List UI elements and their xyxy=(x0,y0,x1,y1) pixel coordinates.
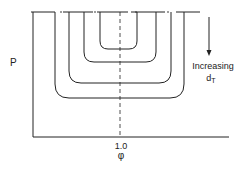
diagram-canvas: P 1.0 φ Increasing dT xyxy=(0,0,245,169)
annotation-line2: dT xyxy=(206,73,216,84)
annotation-line1: Increasing xyxy=(192,61,234,71)
down-arrow-icon xyxy=(207,17,212,56)
curve-1 xyxy=(100,12,137,49)
y-axis-label: P xyxy=(10,57,17,68)
x-axis-label: φ xyxy=(118,150,125,161)
curve-4 xyxy=(55,12,184,98)
annotation-dt-sub: T xyxy=(211,77,216,84)
